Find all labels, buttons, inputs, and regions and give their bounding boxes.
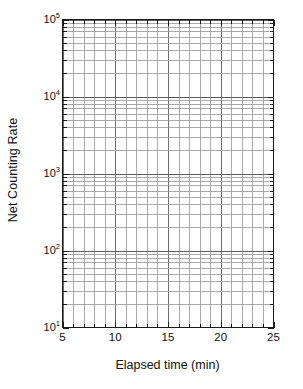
plot-area xyxy=(0,0,303,389)
chart-figure: Net Counting Rate 101102103104105 510152… xyxy=(0,0,303,389)
